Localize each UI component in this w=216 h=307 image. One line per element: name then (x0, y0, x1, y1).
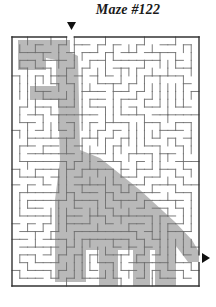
maze-board[interactable] (0, 0, 216, 307)
right-arrow-icon (202, 253, 210, 263)
down-arrow-icon (67, 22, 76, 30)
dinosaur-silhouette (18, 40, 199, 286)
